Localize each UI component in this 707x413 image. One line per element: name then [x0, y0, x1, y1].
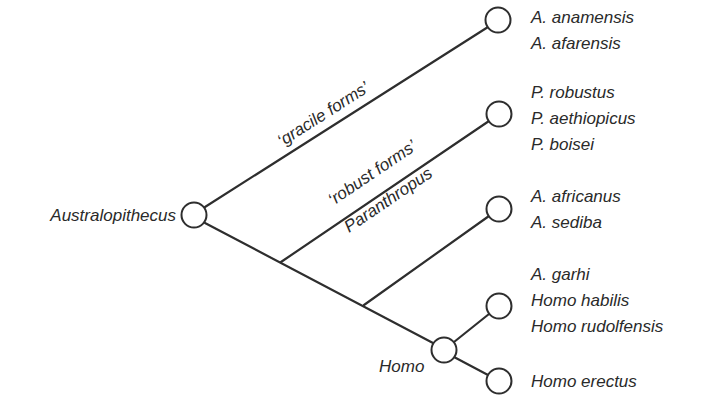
species-label: A. garhi	[530, 265, 591, 284]
species-africanus: A. africanus A. sediba	[530, 187, 621, 232]
edge-trunk	[205, 223, 433, 343]
node-africanus	[487, 197, 512, 222]
node-robust	[487, 102, 512, 127]
species-gracile: A. anamensis A. afarensis	[530, 8, 634, 53]
node-erectus	[487, 369, 512, 394]
edge-erectus	[454, 357, 488, 375]
species-label: A. sediba	[530, 213, 602, 232]
species-erectus: Homo erectus	[531, 372, 637, 391]
species-label: P. robustus	[531, 83, 615, 102]
species-label: Homo rudolfensis	[531, 317, 664, 336]
species-early-homo: A. garhi Homo habilis Homo rudolfensis	[530, 265, 664, 336]
homo-label: Homo	[379, 357, 424, 376]
species-label: A. anamensis	[530, 8, 634, 27]
species-robust: P. robustus P. aethiopicus P. boisei	[531, 83, 636, 154]
phylogeny-diagram: Australopithecus Homo ‘gracile forms’ ‘r…	[0, 0, 707, 413]
node-gracile	[486, 8, 511, 33]
species-label: A. africanus	[530, 187, 621, 206]
node-root-australopithecus	[182, 203, 207, 228]
species-label: P. boisei	[531, 135, 595, 154]
node-homo	[432, 338, 457, 363]
species-label: Homo erectus	[531, 372, 637, 391]
species-label: P. aethiopicus	[531, 109, 636, 128]
species-label: A. afarensis	[530, 34, 621, 53]
species-label: Homo habilis	[531, 291, 630, 310]
edge-africanus	[364, 216, 489, 305]
node-early-homo	[487, 294, 512, 319]
root-label: Australopithecus	[49, 206, 176, 225]
edge-early-homo	[454, 314, 489, 342]
gracile-forms-label: ‘gracile forms’	[274, 78, 373, 150]
